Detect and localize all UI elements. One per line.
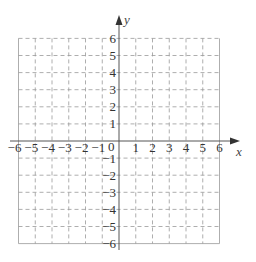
y-tick-label: 2 [110,99,117,114]
x-tick-label: 1 [133,140,140,155]
x-tick-label: −5 [24,140,38,155]
y-tick-label: −6 [102,236,116,251]
x-tick-label: −6 [8,140,22,155]
y-tick-label: −4 [102,202,116,217]
x-tick-label: 4 [183,140,190,155]
x-tick-label: −3 [58,140,72,155]
x-tick-label: 2 [149,140,156,155]
x-tick-label: 3 [166,140,173,155]
y-axis-arrow-icon [116,15,123,25]
y-tick-label: 1 [110,116,117,131]
y-tick-label: 5 [110,48,117,63]
y-tick-label: 6 [110,31,117,46]
axes: x y 0 [10,12,242,250]
y-tick-label: 3 [110,82,117,97]
y-tick-label: 4 [110,65,117,80]
y-tick-label: −1 [102,151,116,166]
y-tick-label: −2 [102,168,116,183]
y-tick-label: −5 [102,219,116,234]
x-tick-label: 6 [216,140,223,155]
x-axis-label: x [235,144,242,159]
y-tick-label: −3 [102,185,116,200]
y-axis-label: y [122,12,130,27]
x-tick-label: −2 [75,140,89,155]
x-tick-label: 5 [200,140,207,155]
x-tick-label: −4 [41,140,55,155]
coordinate-plane: x y 0 −6−5−4−3−2−1123456 −6−5−4−3−2−1123… [0,0,256,262]
